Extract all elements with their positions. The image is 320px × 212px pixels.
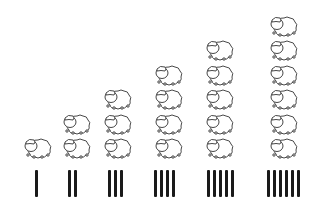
tally-mark [291, 170, 294, 197]
sheep-icon [153, 64, 183, 86]
sheep-icon [153, 88, 183, 110]
tally-mark [273, 170, 276, 197]
sheep-icon [22, 137, 52, 159]
tally-mark [74, 170, 77, 197]
sheep-icon [268, 113, 298, 135]
sheep-icon [204, 64, 234, 86]
tally-mark [225, 170, 228, 197]
tally-marks [267, 170, 300, 197]
sheep-icon [102, 88, 132, 110]
sheep-icon [153, 137, 183, 159]
tally-marks [35, 170, 38, 197]
sheep-icon [204, 88, 234, 110]
tally-mark [219, 170, 222, 197]
tally-mark [172, 170, 175, 197]
tally-mark [297, 170, 300, 197]
sheep-icon [102, 113, 132, 135]
tally-marks [108, 170, 123, 197]
sheep-icon [268, 137, 298, 159]
tally-mark [267, 170, 270, 197]
sheep-icon [204, 113, 234, 135]
sheep-icon [204, 137, 234, 159]
tally-mark [114, 170, 117, 197]
tally-mark [160, 170, 163, 197]
tally-marks [154, 170, 175, 197]
sheep-icon [268, 64, 298, 86]
tally-mark [285, 170, 288, 197]
tally-marks [68, 170, 77, 197]
tally-marks [207, 170, 234, 197]
sheep-icon [268, 39, 298, 61]
tally-mark [154, 170, 157, 197]
tally-mark [35, 170, 38, 197]
tally-mark [279, 170, 282, 197]
sheep-icon [153, 113, 183, 135]
tally-mark [231, 170, 234, 197]
sheep-icon [61, 113, 91, 135]
tally-mark [108, 170, 111, 197]
sheep-icon [268, 88, 298, 110]
sheep-icon [102, 137, 132, 159]
tally-mark [207, 170, 210, 197]
sheep-icon [204, 39, 234, 61]
tally-mark [68, 170, 71, 197]
tally-mark [213, 170, 216, 197]
sheep-icon [61, 137, 91, 159]
tally-mark [120, 170, 123, 197]
tally-mark [166, 170, 169, 197]
sheep-icon [268, 15, 298, 37]
